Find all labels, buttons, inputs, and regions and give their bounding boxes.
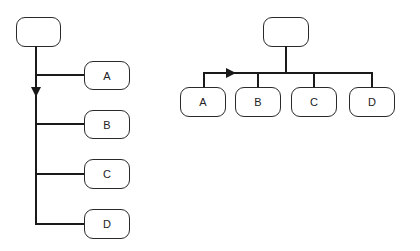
arrow-right-icon (226, 68, 236, 78)
node-label: B (254, 96, 261, 108)
node-label: C (103, 168, 111, 180)
horizontal-tree-root-node (263, 17, 309, 47)
vertical-node-a: A (84, 61, 130, 90)
drop-line-b (257, 72, 259, 87)
horizontal-node-a: A (180, 87, 226, 117)
branch-line-c (36, 173, 84, 175)
horizontal-node-c: C (291, 87, 337, 117)
vertical-tree-root-node (16, 17, 61, 47)
vertical-node-b: B (84, 110, 130, 139)
branch-line-b (36, 123, 84, 125)
drop-line-d (371, 72, 373, 87)
horizontal-node-d: D (349, 87, 395, 117)
node-label: B (103, 119, 110, 131)
root-stem-line (285, 46, 287, 74)
horizontal-node-b: B (235, 87, 281, 117)
vertical-node-d: D (84, 209, 130, 239)
drop-line-c (313, 72, 315, 87)
node-label: D (103, 218, 111, 230)
vertical-trunk-line (35, 46, 37, 225)
arrow-down-icon (31, 87, 41, 97)
node-label: D (368, 96, 376, 108)
branch-line-d (36, 223, 84, 225)
branch-line-a (36, 74, 84, 76)
node-label: A (103, 70, 110, 82)
drop-line-a (203, 72, 205, 87)
node-label: C (310, 96, 318, 108)
vertical-node-c: C (84, 159, 130, 189)
node-label: A (199, 96, 206, 108)
